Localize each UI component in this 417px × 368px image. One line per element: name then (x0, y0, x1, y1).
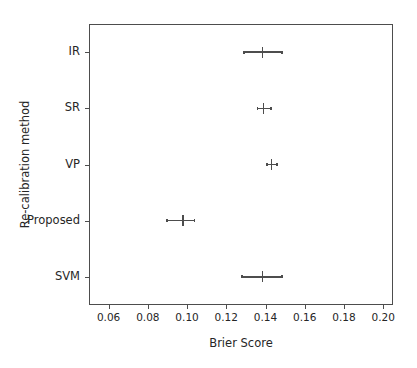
errorbar-cap (166, 219, 167, 222)
errorbar-cap (276, 163, 277, 166)
brier-score-chart-figure: 0.060.080.100.120.140.160.180.20 SVMProp… (0, 0, 417, 368)
y-tick-mark (85, 221, 89, 222)
y-tick-label-vp: VP (0, 157, 80, 171)
y-tick-label-svm: SVM (0, 269, 80, 283)
data-point-marker-sr (263, 103, 265, 114)
y-tick-mark (85, 52, 89, 53)
errorbar-cap (241, 275, 242, 278)
x-tick-mark (109, 305, 110, 309)
x-tick-mark (344, 305, 345, 309)
plot-area (89, 24, 393, 305)
errorbar-cap (270, 107, 271, 110)
x-tick-mark (383, 305, 384, 309)
x-axis-title: Brier Score (89, 336, 393, 350)
errorbar-cap (194, 219, 195, 222)
y-tick-mark (85, 108, 89, 109)
y-axis-title: Re-calibration method (16, 24, 34, 305)
data-point-marker-proposed (182, 215, 184, 226)
x-tick-label: 0.20 (353, 311, 413, 323)
y-tick-mark (85, 277, 89, 278)
errorbar-cap (281, 51, 282, 54)
x-tick-mark (266, 305, 267, 309)
errorbar-cap (266, 163, 267, 166)
x-tick-mark (148, 305, 149, 309)
x-tick-mark (187, 305, 188, 309)
data-point-marker-ir (262, 47, 264, 58)
data-point-marker-svm (262, 271, 264, 282)
y-tick-label-ir: IR (0, 44, 80, 58)
y-tick-label-sr: SR (0, 100, 80, 114)
x-tick-mark (305, 305, 306, 309)
y-tick-mark (85, 165, 89, 166)
data-point-marker-vp (271, 159, 273, 170)
y-tick-label-proposed: Proposed (0, 213, 80, 227)
x-tick-mark (226, 305, 227, 309)
errorbar-cap (281, 275, 282, 278)
errorbar-cap (257, 107, 258, 110)
errorbar-cap (243, 51, 244, 54)
errorbar-range (166, 220, 193, 222)
